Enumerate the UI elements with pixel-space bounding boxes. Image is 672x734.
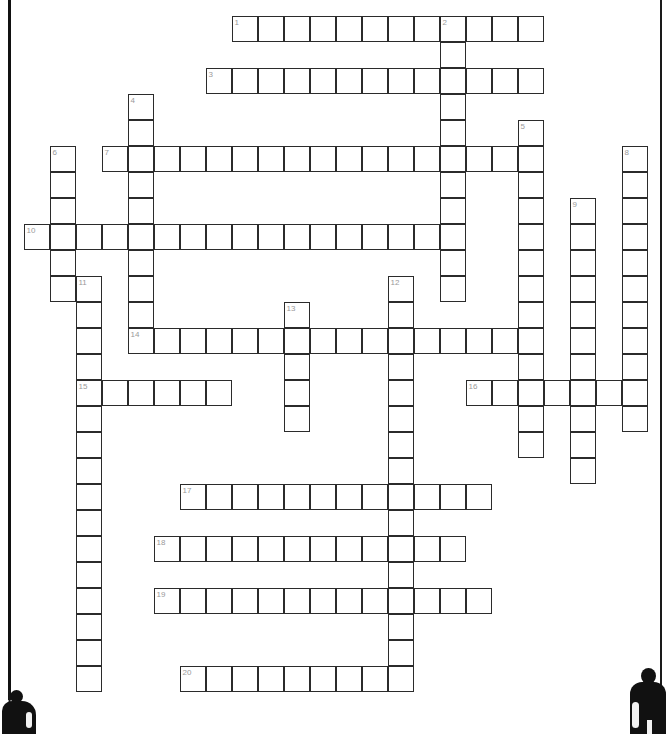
crossword-cell[interactable] — [570, 250, 596, 276]
crossword-cell[interactable] — [76, 458, 102, 484]
crossword-cell[interactable] — [466, 380, 492, 406]
crossword-cell[interactable] — [518, 198, 544, 224]
crossword-cell[interactable] — [440, 198, 466, 224]
crossword-cell[interactable] — [206, 380, 232, 406]
crossword-cell[interactable] — [180, 224, 206, 250]
crossword-cell[interactable] — [284, 588, 310, 614]
crossword-cell[interactable] — [622, 354, 648, 380]
crossword-cell[interactable] — [76, 380, 102, 406]
crossword-cell[interactable] — [310, 484, 336, 510]
crossword-cell[interactable] — [440, 328, 466, 354]
crossword-cell[interactable] — [570, 302, 596, 328]
crossword-cell[interactable] — [232, 588, 258, 614]
crossword-cell[interactable] — [362, 666, 388, 692]
crossword-cell[interactable] — [596, 380, 622, 406]
crossword-cell[interactable] — [570, 406, 596, 432]
crossword-cell[interactable] — [310, 16, 336, 42]
crossword-cell[interactable] — [440, 94, 466, 120]
crossword-cell[interactable] — [102, 224, 128, 250]
crossword-cell[interactable] — [50, 250, 76, 276]
crossword-cell[interactable] — [440, 16, 466, 42]
crossword-cell[interactable] — [232, 484, 258, 510]
crossword-cell[interactable] — [310, 328, 336, 354]
crossword-cell[interactable] — [570, 354, 596, 380]
crossword-cell[interactable] — [232, 666, 258, 692]
crossword-cell[interactable] — [518, 380, 544, 406]
crossword-cell[interactable] — [570, 380, 596, 406]
crossword-cell[interactable] — [622, 172, 648, 198]
crossword-cell[interactable] — [154, 328, 180, 354]
crossword-cell[interactable] — [232, 68, 258, 94]
crossword-cell[interactable] — [518, 432, 544, 458]
crossword-cell[interactable] — [440, 224, 466, 250]
crossword-cell[interactable] — [76, 588, 102, 614]
crossword-cell[interactable] — [76, 406, 102, 432]
crossword-cell[interactable] — [310, 68, 336, 94]
crossword-cell[interactable] — [414, 536, 440, 562]
crossword-cell[interactable] — [440, 484, 466, 510]
crossword-cell[interactable] — [76, 666, 102, 692]
crossword-cell[interactable] — [622, 224, 648, 250]
crossword-cell[interactable] — [518, 354, 544, 380]
crossword-cell[interactable] — [440, 536, 466, 562]
crossword-cell[interactable] — [310, 224, 336, 250]
crossword-cell[interactable] — [284, 536, 310, 562]
crossword-cell[interactable] — [24, 224, 50, 250]
crossword-cell[interactable] — [414, 16, 440, 42]
crossword-cell[interactable] — [206, 146, 232, 172]
crossword-cell[interactable] — [336, 484, 362, 510]
crossword-cell[interactable] — [518, 406, 544, 432]
crossword-cell[interactable] — [76, 640, 102, 666]
crossword-cell[interactable] — [518, 328, 544, 354]
crossword-cell[interactable] — [388, 68, 414, 94]
crossword-cell[interactable] — [50, 146, 76, 172]
crossword-cell[interactable] — [492, 146, 518, 172]
crossword-cell[interactable] — [518, 68, 544, 94]
crossword-cell[interactable] — [362, 68, 388, 94]
crossword-cell[interactable] — [440, 250, 466, 276]
crossword-cell[interactable] — [518, 146, 544, 172]
crossword-cell[interactable] — [128, 380, 154, 406]
crossword-cell[interactable] — [336, 666, 362, 692]
crossword-cell[interactable] — [388, 536, 414, 562]
crossword-cell[interactable] — [388, 224, 414, 250]
crossword-cell[interactable] — [258, 224, 284, 250]
crossword-cell[interactable] — [284, 302, 310, 328]
crossword-cell[interactable] — [362, 328, 388, 354]
crossword-cell[interactable] — [128, 120, 154, 146]
crossword-cell[interactable] — [388, 614, 414, 640]
crossword-cell[interactable] — [154, 146, 180, 172]
crossword-cell[interactable] — [310, 666, 336, 692]
crossword-cell[interactable] — [232, 146, 258, 172]
crossword-cell[interactable] — [50, 224, 76, 250]
crossword-cell[interactable] — [388, 328, 414, 354]
crossword-cell[interactable] — [414, 588, 440, 614]
crossword-cell[interactable] — [440, 68, 466, 94]
crossword-cell[interactable] — [492, 380, 518, 406]
crossword-cell[interactable] — [544, 380, 570, 406]
crossword-cell[interactable] — [388, 562, 414, 588]
crossword-cell[interactable] — [414, 484, 440, 510]
crossword-cell[interactable] — [570, 432, 596, 458]
crossword-cell[interactable] — [102, 146, 128, 172]
crossword-cell[interactable] — [76, 354, 102, 380]
crossword-cell[interactable] — [518, 250, 544, 276]
crossword-cell[interactable] — [284, 16, 310, 42]
crossword-cell[interactable] — [492, 328, 518, 354]
crossword-cell[interactable] — [310, 536, 336, 562]
crossword-cell[interactable] — [388, 666, 414, 692]
crossword-cell[interactable] — [388, 354, 414, 380]
crossword-cell[interactable] — [180, 146, 206, 172]
crossword-cell[interactable] — [466, 16, 492, 42]
crossword-cell[interactable] — [440, 120, 466, 146]
crossword-cell[interactable] — [206, 328, 232, 354]
crossword-cell[interactable] — [258, 68, 284, 94]
crossword-cell[interactable] — [76, 224, 102, 250]
crossword-cell[interactable] — [336, 68, 362, 94]
crossword-cell[interactable] — [180, 380, 206, 406]
crossword-cell[interactable] — [128, 224, 154, 250]
crossword-cell[interactable] — [362, 146, 388, 172]
crossword-cell[interactable] — [180, 484, 206, 510]
crossword-cell[interactable] — [570, 328, 596, 354]
crossword-cell[interactable] — [622, 406, 648, 432]
